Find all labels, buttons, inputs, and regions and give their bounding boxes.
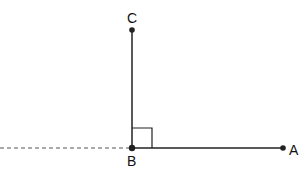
point-a [280, 145, 286, 151]
right-angle-marker [132, 128, 152, 148]
point-b [129, 145, 135, 151]
label-b: B [127, 153, 136, 169]
geometry-diagram: A B C [0, 0, 304, 193]
point-c [129, 27, 135, 33]
label-c: C [127, 10, 137, 26]
label-a: A [289, 142, 299, 158]
